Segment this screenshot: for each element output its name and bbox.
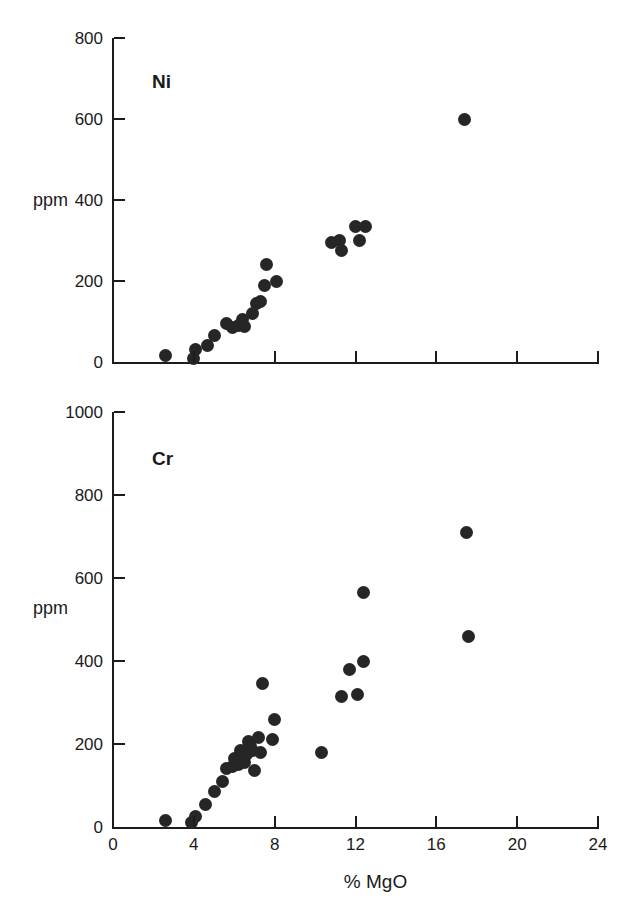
x-tick-label: 0 xyxy=(108,836,117,853)
data-point xyxy=(240,748,253,761)
y-tick-cr xyxy=(114,577,125,579)
data-point xyxy=(189,810,202,823)
data-point xyxy=(335,690,348,703)
data-point xyxy=(234,744,247,757)
data-point xyxy=(258,279,271,292)
data-point xyxy=(236,754,249,767)
x-tick-ni xyxy=(193,351,195,362)
y-tick-cr xyxy=(114,743,125,745)
x-tick-label: 24 xyxy=(589,836,608,853)
y-tick-cr xyxy=(114,494,125,496)
data-point xyxy=(270,275,283,288)
data-point xyxy=(460,526,473,539)
y-tick-label-cr: 1000 xyxy=(37,404,103,421)
data-point xyxy=(228,752,241,765)
x-tick-cr xyxy=(355,816,357,827)
data-point xyxy=(248,764,261,777)
data-point xyxy=(458,113,471,126)
panel-title-ni: Ni xyxy=(152,72,171,91)
data-point xyxy=(238,756,251,769)
data-point xyxy=(266,733,279,746)
x-tick-label: 16 xyxy=(427,836,446,853)
data-point xyxy=(226,321,239,334)
data-point xyxy=(201,339,214,352)
plot-area-cr xyxy=(0,0,626,917)
data-point xyxy=(199,798,212,811)
data-point xyxy=(315,746,328,759)
data-point xyxy=(208,785,221,798)
figure-canvas: Ni ppm 0200400600800 Cr ppm % MgO 020040… xyxy=(0,0,626,917)
x-tick-ni xyxy=(274,351,276,362)
data-point xyxy=(242,735,255,748)
x-tick-label: 12 xyxy=(346,836,365,853)
x-tick-label: 4 xyxy=(189,836,198,853)
x-tick-ni xyxy=(355,351,357,362)
data-point xyxy=(216,775,229,788)
data-point xyxy=(343,663,356,676)
x-tick-cr xyxy=(597,816,599,827)
data-point xyxy=(250,297,263,310)
data-point xyxy=(254,746,267,759)
y-tick-cr xyxy=(114,660,125,662)
y-tick-ni xyxy=(114,37,125,39)
data-point xyxy=(351,688,364,701)
x-tick-cr xyxy=(193,816,195,827)
x-axis-line-ni xyxy=(112,362,599,364)
panel-title-cr: Cr xyxy=(152,449,173,468)
data-point xyxy=(238,320,251,333)
y-tick-label-cr: 0 xyxy=(37,819,103,836)
data-point xyxy=(268,713,281,726)
data-point xyxy=(220,762,233,775)
y-tick-ni xyxy=(114,118,125,120)
data-point xyxy=(189,343,202,356)
y-tick-label-ni: 400 xyxy=(37,192,103,209)
data-point xyxy=(353,234,366,247)
y-tick-label-ni: 200 xyxy=(37,273,103,290)
data-point xyxy=(252,731,265,744)
data-point xyxy=(260,258,273,271)
data-point xyxy=(254,295,267,308)
data-point xyxy=(159,349,172,362)
x-tick-label: 20 xyxy=(508,836,527,853)
data-point xyxy=(246,744,259,757)
x-axis-line-cr xyxy=(112,827,599,829)
y-tick-ni xyxy=(114,280,125,282)
x-tick-ni xyxy=(435,351,437,362)
y-tick-ni xyxy=(114,199,125,201)
x-tick-ni xyxy=(516,351,518,362)
y-axis-line-cr xyxy=(112,412,114,827)
data-point xyxy=(462,630,475,643)
y-tick-label-ni: 600 xyxy=(37,111,103,128)
data-point xyxy=(357,655,370,668)
data-point xyxy=(246,307,259,320)
data-point xyxy=(220,317,233,330)
data-point xyxy=(333,234,346,247)
data-point xyxy=(232,319,245,332)
y-axis-label-cr: ppm xyxy=(33,599,68,617)
x-axis-label: % MgO xyxy=(344,872,407,891)
data-point xyxy=(256,677,269,690)
x-tick-cr xyxy=(435,816,437,827)
data-point xyxy=(226,760,239,773)
data-point xyxy=(359,220,372,233)
y-tick-cr xyxy=(114,411,125,413)
data-point xyxy=(244,740,257,753)
x-tick-ni xyxy=(597,351,599,362)
y-tick-label-cr: 400 xyxy=(37,653,103,670)
y-tick-label-cr: 600 xyxy=(37,570,103,587)
y-tick-label-ni: 0 xyxy=(37,354,103,371)
data-point xyxy=(232,758,245,771)
y-tick-label-cr: 200 xyxy=(37,736,103,753)
plot-area-ni xyxy=(0,0,626,917)
data-point xyxy=(357,586,370,599)
data-point xyxy=(349,220,362,233)
y-tick-label-cr: 800 xyxy=(37,487,103,504)
y-tick-label-ni: 800 xyxy=(37,30,103,47)
x-tick-cr xyxy=(274,816,276,827)
x-tick-label: 8 xyxy=(270,836,279,853)
x-tick-cr xyxy=(516,816,518,827)
data-point xyxy=(208,329,221,342)
data-point xyxy=(236,313,249,326)
data-point xyxy=(325,236,338,249)
data-point xyxy=(335,244,348,257)
